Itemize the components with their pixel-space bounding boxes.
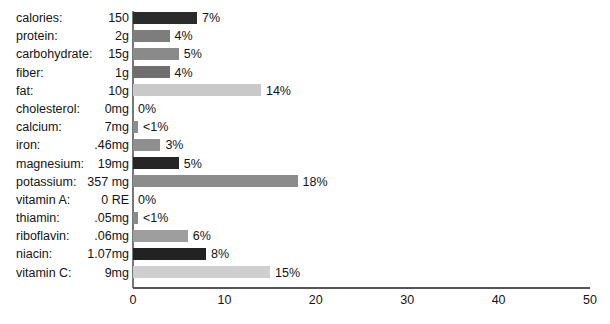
bar: [133, 66, 170, 78]
chart-row: 150calories:7%: [0, 9, 610, 27]
chart-row: 9mgvitamin C:15%: [0, 264, 610, 282]
x-tick-label: 50: [583, 291, 597, 309]
nutrient-label: vitamin A:: [16, 191, 70, 209]
bar-value-label: 0%: [138, 100, 156, 118]
nutrient-label: magnesium:: [16, 155, 84, 173]
x-tick-label: 10: [217, 291, 231, 309]
bar-track: 6%: [133, 227, 610, 245]
bar-track: 14%: [133, 82, 610, 100]
nutrient-label: carbohydrate:: [16, 45, 92, 63]
chart-row: 0mgcholesterol:0%: [0, 100, 610, 118]
bar-track: <1%: [133, 118, 610, 136]
bar-track: 15%: [133, 264, 610, 282]
chart-row: 0 REvitamin A:0%: [0, 191, 610, 209]
bar: [133, 212, 138, 224]
nutrient-label: fat:: [16, 82, 33, 100]
nutrient-label: protein:: [16, 27, 58, 45]
bar-value-label: 15%: [275, 264, 300, 282]
bar-track: 7%: [133, 9, 610, 27]
chart-row: .06mgriboflavin:6%: [0, 227, 610, 245]
x-axis-ticks: 01020304050: [0, 291, 610, 311]
bar: [133, 230, 188, 242]
chart-row: 19mgmagnesium:5%: [0, 155, 610, 173]
x-axis-line: [133, 287, 590, 289]
chart-row: .46mgiron:3%: [0, 136, 610, 154]
bar-value-label: <1%: [143, 209, 168, 227]
chart-row: .05mgthiamin:<1%: [0, 209, 610, 227]
bar: [133, 248, 206, 260]
chart-row: 15gcarbohydrate:5%: [0, 45, 610, 63]
bar: [133, 121, 138, 133]
bar-track: 4%: [133, 27, 610, 45]
nutrient-label: iron:: [16, 136, 40, 154]
bar: [133, 30, 170, 42]
bar-value-label: 4%: [175, 64, 193, 82]
bar-value-label: 7%: [202, 9, 220, 27]
chart-row: 1gfiber:4%: [0, 64, 610, 82]
bar-value-label: 5%: [184, 45, 202, 63]
bar-track: 5%: [133, 45, 610, 63]
bar-track: 5%: [133, 155, 610, 173]
chart-rows: 150calories:7%2gprotein:4%15gcarbohydrat…: [0, 9, 610, 282]
bar-track: 4%: [133, 64, 610, 82]
bar-track: 18%: [133, 173, 610, 191]
nutrient-label: fiber:: [16, 64, 44, 82]
bar-value-label: 3%: [165, 136, 183, 154]
bar-value-label: 6%: [193, 227, 211, 245]
nutrient-label: vitamin C:: [16, 264, 72, 282]
bar-track: 0%: [133, 191, 610, 209]
bar: [133, 157, 179, 169]
chart-row: 10gfat:14%: [0, 82, 610, 100]
bar: [133, 175, 298, 187]
nutrient-label: riboflavin:: [16, 227, 70, 245]
bar-track: <1%: [133, 209, 610, 227]
x-tick-label: 30: [400, 291, 414, 309]
chart-title-clipped: [0, 0, 610, 8]
nutrient-label: potassium:: [16, 173, 76, 191]
x-tick-label: 20: [309, 291, 323, 309]
nutrient-label: cholesterol:: [16, 100, 80, 118]
chart-row: 7mgcalcium:<1%: [0, 118, 610, 136]
nutrition-bar-chart: 150calories:7%2gprotein:4%15gcarbohydrat…: [0, 0, 610, 324]
bar-value-label: 5%: [184, 155, 202, 173]
bar-value-label: 14%: [266, 82, 291, 100]
chart-row: 2gprotein:4%: [0, 27, 610, 45]
nutrient-label: niacin:: [16, 245, 52, 263]
bar: [133, 12, 197, 24]
bar-value-label: 4%: [175, 27, 193, 45]
nutrient-label: thiamin:: [16, 209, 60, 227]
x-tick-label: 40: [492, 291, 506, 309]
bar: [133, 48, 179, 60]
bar-track: 8%: [133, 245, 610, 263]
bar: [133, 139, 160, 151]
chart-row: 357 mgpotassium:18%: [0, 173, 610, 191]
bar: [133, 266, 270, 278]
bar-value-label: <1%: [143, 118, 168, 136]
bar-track: 3%: [133, 136, 610, 154]
x-tick-label: 0: [130, 291, 137, 309]
bar-value-label: 0%: [138, 191, 156, 209]
bar-value-label: 18%: [303, 173, 328, 191]
bar: [133, 84, 261, 96]
chart-row: 1.07mgniacin:8%: [0, 245, 610, 263]
nutrient-label: calories:: [16, 9, 63, 27]
nutrient-label: calcium:: [16, 118, 62, 136]
bar-value-label: 8%: [211, 245, 229, 263]
bar-track: 0%: [133, 100, 610, 118]
